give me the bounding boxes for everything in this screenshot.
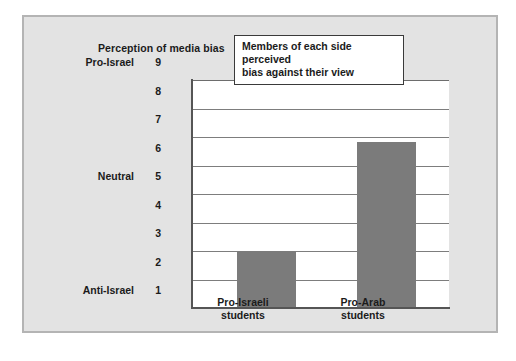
- x-label-line2: students: [178, 309, 308, 322]
- y-tick-9: 9: [139, 56, 161, 68]
- y-tick-8: 8: [139, 85, 161, 97]
- annotation-line-1: Members of each side perceived: [242, 40, 397, 66]
- y-category-neutral: Neutral: [60, 170, 134, 182]
- x-label-line2: students: [298, 309, 428, 322]
- y-tick-6: 6: [139, 142, 161, 154]
- x-label-pro-israeli-students: Pro-Israeli students: [178, 296, 308, 322]
- plot-area: [192, 80, 449, 308]
- y-tick-2: 2: [139, 256, 161, 268]
- x-label-line1: Pro-Arab: [298, 296, 428, 309]
- gridline-7: [192, 137, 449, 138]
- y-tick-1: 1: [139, 284, 161, 296]
- x-label-line1: Pro-Israeli: [178, 296, 308, 309]
- x-label-pro-arab-students: Pro-Arab students: [298, 296, 428, 322]
- y-axis-line: [191, 79, 193, 309]
- y-tick-3: 3: [139, 227, 161, 239]
- y-tick-4: 4: [139, 199, 161, 211]
- y-category-pro-israel: Pro-Israel: [60, 56, 134, 68]
- annotation-callout: Members of each side perceived bias agai…: [234, 35, 404, 85]
- bar-pro-arab-students: [357, 142, 416, 308]
- gridline-8: [192, 109, 449, 110]
- chart-title: Perception of media bias: [98, 42, 225, 54]
- y-tick-5: 5: [139, 170, 161, 182]
- y-category-anti-israel: Anti-Israel: [60, 284, 134, 296]
- y-tick-7: 7: [139, 113, 161, 125]
- annotation-line-2: bias against their view: [242, 66, 397, 79]
